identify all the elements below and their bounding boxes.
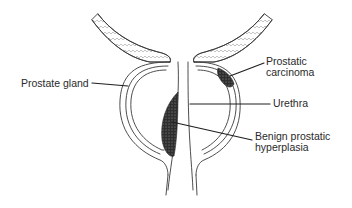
bph-nodule <box>162 92 178 156</box>
bladder-wall-right <box>193 14 272 62</box>
label-benign-prostatic-hyperplasia: Benign prostatic hyperplasia <box>255 131 330 153</box>
leader-bph <box>172 122 252 140</box>
leader-prostatic-carcinoma <box>230 63 264 76</box>
prostate-lobe-right <box>194 62 240 175</box>
label-urethra: Urethra <box>273 98 308 109</box>
label-prostatic-carcinoma: Prostatic carcinoma <box>266 56 314 78</box>
carcinoma-nodule <box>217 68 234 87</box>
leader-prostate-gland <box>92 83 128 86</box>
label-prostate-gland: Prostate gland <box>21 78 89 89</box>
prostate-lobe-left <box>120 62 170 175</box>
bladder-wall-left <box>92 14 171 62</box>
